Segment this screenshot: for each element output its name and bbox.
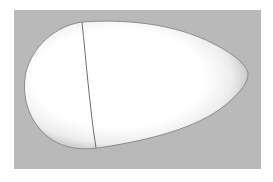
egg-shape: [25, 21, 248, 149]
render-viewport: [14, 10, 261, 169]
egg-render: [14, 10, 261, 169]
